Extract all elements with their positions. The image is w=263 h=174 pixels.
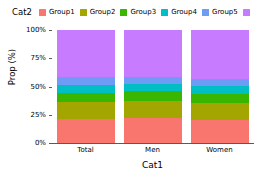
bar-segment-group6[interactable]: [191, 30, 249, 79]
bar-segment-group1[interactable]: [57, 119, 115, 143]
legend-item-group3[interactable]: Group3: [120, 8, 156, 16]
bar-segment-group1[interactable]: [191, 120, 249, 143]
y-tick-label: 100%: [20, 26, 46, 34]
legend-label-group5: Group5: [212, 8, 238, 16]
bar-segment-group5[interactable]: [57, 77, 115, 85]
y-tick-label: 25%: [20, 111, 46, 119]
legend-swatch-group4: [161, 9, 168, 16]
x-axis-line: [52, 143, 254, 144]
legend-swatch-group2: [80, 9, 87, 16]
legend-item-group4[interactable]: Group4: [161, 8, 197, 16]
x-axis-title: Cat1: [52, 160, 253, 170]
y-tick-label: 50%: [20, 83, 46, 91]
legend-item-group6[interactable]: [243, 9, 250, 16]
legend-swatch-group3: [120, 9, 127, 16]
legend-label-group1: Group1: [49, 8, 75, 16]
legend-item-group1[interactable]: Group1: [39, 8, 75, 16]
legend-swatch-group5: [202, 9, 209, 16]
y-tick-mark: [49, 143, 52, 144]
y-axis-title: Prop (%): [7, 37, 17, 97]
bar-segment-group3[interactable]: [191, 94, 249, 103]
legend-item-group2[interactable]: Group2: [80, 8, 116, 16]
bar-segment-group4[interactable]: [57, 85, 115, 93]
bar-segment-group2[interactable]: [57, 102, 115, 119]
bar-segment-group1[interactable]: [124, 118, 182, 143]
plot-panel: [52, 30, 253, 143]
legend-label-group3: Group3: [130, 8, 156, 16]
legend-title: Cat2: [12, 7, 32, 17]
legend-label-group4: Group4: [171, 8, 197, 16]
legend-swatch-group6: [243, 9, 250, 16]
bar-men[interactable]: [124, 30, 182, 143]
bar-segment-group5[interactable]: [124, 77, 182, 84]
bar-segment-group2[interactable]: [124, 101, 182, 118]
y-tick-label: 0%: [20, 139, 46, 147]
bar-segment-group3[interactable]: [124, 91, 182, 101]
bar-segment-group4[interactable]: [124, 84, 182, 91]
legend-label-group2: Group2: [90, 8, 116, 16]
legend-item-group5[interactable]: Group5: [202, 8, 238, 16]
bar-segment-group5[interactable]: [191, 79, 249, 87]
chart-legend: Cat2 Group1 Group2 Group3 Group4 Group5: [12, 7, 250, 17]
chart-container: Cat2 Group1 Group2 Group3 Group4 Group5 …: [0, 0, 263, 174]
x-tick-label-total: Total: [56, 146, 116, 154]
bar-total[interactable]: [57, 30, 115, 143]
y-tick-label: 75%: [20, 54, 46, 62]
bar-segment-group3[interactable]: [57, 93, 115, 102]
bar-segment-group6[interactable]: [124, 30, 182, 77]
bar-segment-group4[interactable]: [191, 86, 249, 94]
bar-segment-group2[interactable]: [191, 103, 249, 120]
bar-segment-group6[interactable]: [57, 30, 115, 77]
bar-women[interactable]: [191, 30, 249, 143]
x-tick-label-women: Women: [190, 146, 250, 154]
legend-swatch-group1: [39, 9, 46, 16]
x-tick-label-men: Men: [123, 146, 183, 154]
